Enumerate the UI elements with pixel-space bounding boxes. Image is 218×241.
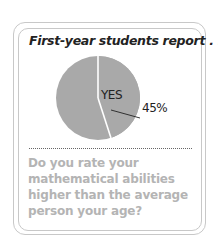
pie-label-percent: 45%	[142, 101, 167, 115]
survey-question: Do you rate your mathematical abilities …	[28, 155, 203, 219]
card-title: First-year students report . . .	[29, 33, 199, 48]
dotted-divider	[29, 148, 192, 149]
pie-label-yes: YES	[101, 88, 122, 102]
pie-chart	[56, 56, 140, 140]
